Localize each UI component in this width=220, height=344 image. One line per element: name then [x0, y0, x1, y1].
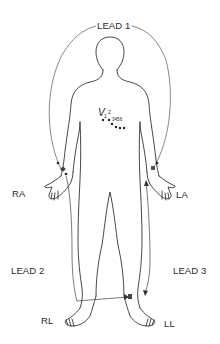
human-body-outline: [45, 37, 175, 326]
electrode-ll-label: LL: [164, 319, 175, 329]
chest-lead-v3-v6-label: 3 4 5 6: [112, 118, 122, 123]
chest-lead-v2-label: 2: [108, 110, 111, 115]
lead-3-wire: [145, 182, 150, 293]
chest-lead-v1-label: 1: [104, 114, 107, 119]
electrode-la-icon: [151, 166, 155, 170]
lead-3-arrow-down-icon: [143, 290, 148, 296]
lead-1-wire: [49, 26, 170, 171]
lead-3-label: LEAD 3: [173, 266, 206, 276]
electrode-ll-icon: [128, 294, 132, 299]
electrode-rl-label: RL: [41, 316, 53, 326]
lead-2-wire: [66, 176, 128, 301]
electrode-ra-label: RA: [12, 189, 25, 199]
ecg-diagram: [0, 0, 220, 344]
electrode-la-dot-icon: [156, 162, 159, 165]
electrode-ra-icon: [60, 166, 66, 172]
electrode-la-label: LA: [176, 190, 188, 200]
lead-1-label: LEAD 1: [96, 21, 131, 31]
lead-2-label: LEAD 2: [11, 266, 44, 276]
electrode-ra-dot-icon: [57, 162, 60, 165]
electrode-ra-dot2-icon: [65, 173, 68, 176]
